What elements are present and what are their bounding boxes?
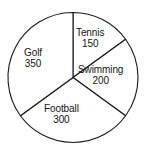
pie-chart-svg (0, 0, 149, 152)
pie-label-swimming-value: 200 (78, 75, 123, 86)
pie-label-tennis-name: Tennis (76, 27, 104, 38)
pie-label-golf: Golf 350 (24, 47, 42, 69)
pie-label-swimming-name: Swimming (78, 64, 123, 75)
pie-label-football-value: 300 (44, 114, 79, 125)
pie-label-football-name: Football (44, 103, 79, 114)
pie-label-tennis: Tennis 150 (76, 27, 104, 49)
pie-label-tennis-value: 150 (76, 38, 104, 49)
pie-label-golf-value: 350 (24, 58, 42, 69)
pie-chart: Tennis 150 Swimming 200 Football 300 Gol… (0, 0, 149, 152)
pie-label-football: Football 300 (44, 103, 79, 125)
pie-label-swimming: Swimming 200 (78, 64, 123, 86)
pie-label-golf-name: Golf (24, 47, 42, 58)
